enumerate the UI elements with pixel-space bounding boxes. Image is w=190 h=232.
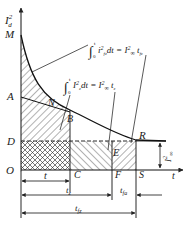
svg-text:0: 0 [68, 90, 71, 95]
y-axis-label: I2d [4, 13, 13, 29]
label-r: R [138, 129, 146, 141]
svg-text:0: 0 [93, 54, 96, 59]
svg-text:t: t [69, 77, 71, 82]
label-e: E [112, 147, 119, 158]
dim-tfa-label: tfa [120, 185, 127, 196]
label-a: A [6, 90, 14, 102]
svg-text:I2zdt = I2∞ tz: I2zdt = I2∞ tz [72, 80, 116, 91]
formula-lower: ∫ t 0 I2zdt = I2∞ tz [63, 77, 116, 96]
label-d: D [6, 135, 15, 147]
label-f: F [114, 169, 122, 180]
leader-upper [32, 45, 88, 72]
crosshatch-rect [21, 141, 70, 170]
label-s: S [139, 169, 144, 180]
hatched-rect-cf [70, 141, 112, 170]
svg-text:i2fzdt = I2∞ tfz: i2fzdt = I2∞ tfz [98, 45, 143, 56]
dim-t-label: t [44, 170, 47, 181]
x-axis-label: t [172, 170, 175, 181]
svg-text:t: t [94, 41, 96, 46]
hatched-area-curve [21, 35, 70, 141]
short-circuit-heating-diagram: I2d M A N B D E R O C F S t t tz tfa tfz… [0, 0, 190, 232]
label-origin: O [6, 164, 14, 176]
label-b: B [67, 113, 73, 124]
label-m: M [4, 28, 15, 40]
dim-ts-label: tz [66, 185, 72, 196]
iinf-label: I2∞ [162, 151, 174, 163]
formula-upper: ∫ t 0 i2fzdt = I2∞ tfz [88, 41, 143, 60]
dim-tfz-label: tfz [75, 203, 82, 214]
label-c: C [74, 169, 81, 180]
label-n: N [47, 97, 56, 108]
